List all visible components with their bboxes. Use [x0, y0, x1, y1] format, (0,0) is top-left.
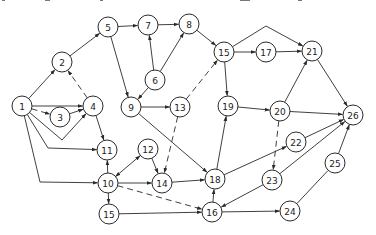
- node-label: 15: [103, 210, 114, 220]
- edge-16-to-18: [213, 190, 214, 203]
- node-label: 10: [102, 179, 114, 189]
- node-label: 16: [206, 208, 218, 218]
- node-12: 12: [138, 139, 158, 159]
- node-17: 17: [256, 42, 276, 62]
- node-26: 26: [343, 105, 363, 125]
- node-label: 9: [128, 103, 134, 113]
- edge-20-to-26: [290, 112, 343, 115]
- node-4: 4: [83, 96, 103, 116]
- node-label: 26: [347, 111, 359, 121]
- node-label: 19: [222, 102, 234, 112]
- network-diagram: 1234567891011121314151516171819202122232…: [0, 0, 376, 235]
- node-label: 21: [306, 47, 317, 57]
- nodes-layer: 1234567891011121314151516171819202122232…: [12, 14, 363, 224]
- node-20: 20: [270, 101, 290, 121]
- node-label: 17: [260, 48, 271, 58]
- node-24: 24: [280, 201, 300, 221]
- node-label: 18: [209, 175, 221, 185]
- node-19: 19: [218, 96, 238, 116]
- node-1: 1: [12, 96, 32, 116]
- node-label: 20: [274, 107, 286, 117]
- node-label: 1: [19, 102, 25, 112]
- edge-7-to-8: [158, 24, 179, 25]
- edge-25-to-26: [339, 125, 350, 154]
- node-8: 8: [179, 14, 199, 34]
- node-22: 22: [286, 132, 306, 152]
- node-11: 11: [97, 140, 117, 160]
- node-label: 4: [90, 102, 96, 112]
- edge-14-to-18: [172, 180, 205, 182]
- edge-4-to-2: [68, 71, 87, 98]
- edge-15-to-16: [119, 212, 202, 214]
- edge-20-to-23: [273, 121, 279, 170]
- node-23: 23: [262, 170, 282, 190]
- edge-12-to-14: [152, 158, 158, 173]
- edge-6-to-9: [138, 88, 148, 100]
- node-18: 18: [205, 169, 225, 189]
- node-label: 14: [156, 179, 168, 189]
- edge-23-to-16: [221, 185, 263, 207]
- edge-1-to-2: [29, 70, 55, 99]
- edge-3-to-4: [70, 109, 84, 114]
- node-label: 15: [218, 48, 229, 58]
- node-9: 9: [121, 97, 141, 117]
- node-label: 23: [266, 176, 277, 186]
- node-15: 15: [214, 42, 234, 62]
- node-13: 13: [170, 97, 190, 117]
- node-label: 13: [174, 103, 185, 113]
- edge-18-to-19: [217, 116, 226, 169]
- node-label: 5: [105, 23, 111, 33]
- node-14: 14: [152, 173, 172, 193]
- node-label: 7: [145, 21, 151, 31]
- edge-1-to-3: [32, 109, 50, 114]
- edge-5-to-7: [118, 26, 138, 27]
- node-3: 3: [50, 107, 70, 127]
- node-6: 6: [145, 70, 165, 90]
- edge-5-to-9: [111, 37, 128, 97]
- edge-18-to-22: [224, 146, 286, 174]
- node-label: 6: [152, 76, 158, 86]
- edge-2-to-5: [70, 33, 100, 56]
- edge-4-to-11: [96, 116, 104, 141]
- node-7: 7: [138, 15, 158, 35]
- node-label: 24: [284, 207, 296, 217]
- edge-10-to-12: [116, 156, 140, 177]
- edge-13-to-14: [164, 117, 177, 173]
- node-15: 15: [99, 204, 119, 224]
- edge-17-to-21: [276, 51, 302, 52]
- node-5: 5: [98, 17, 118, 37]
- node-label: 2: [59, 58, 65, 68]
- node-label: 8: [186, 20, 192, 30]
- node-25: 25: [325, 153, 345, 173]
- edge-20-to-21: [285, 60, 307, 102]
- edge-19-to-20: [238, 107, 270, 110]
- edge-24-to-25: [297, 171, 328, 204]
- node-2: 2: [52, 52, 72, 72]
- edges-layer: [24, 24, 349, 214]
- edge-8-to-15: [197, 30, 216, 45]
- node-label: 25: [329, 159, 340, 169]
- node-16: 16: [202, 202, 222, 222]
- node-label: 11: [101, 146, 112, 156]
- edge-6-to-7: [149, 35, 153, 70]
- node-10: 10: [98, 173, 118, 193]
- edge-15-to-19: [225, 62, 228, 96]
- edge-13-to-15: [186, 60, 217, 99]
- node-21: 21: [302, 41, 322, 61]
- edge-21-to-26: [317, 59, 347, 106]
- node-label: 12: [142, 145, 153, 155]
- edge-6-to-8: [160, 33, 183, 72]
- edge-22-to-26: [305, 120, 344, 138]
- node-label: 3: [57, 113, 63, 123]
- edge-16-to-24: [222, 211, 280, 212]
- node-label: 22: [290, 138, 301, 148]
